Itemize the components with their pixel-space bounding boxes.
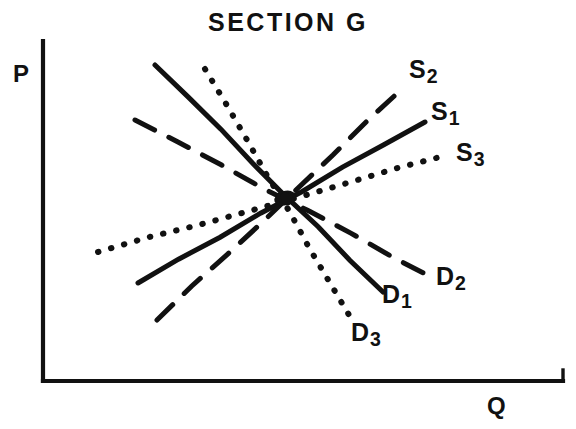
supply-demand-figure: SECTION G P Q S2 S1 S3 D1 D2 D3: [0, 0, 576, 429]
curve-label-s2-sub: 2: [427, 65, 438, 87]
curve-label-d3-base: D: [351, 318, 369, 346]
curve-label-s3-base: S: [456, 138, 473, 166]
curve-label-s1-sub: 1: [449, 107, 460, 129]
curve-label-s2-base: S: [409, 55, 426, 83]
curve-label-s3-sub: 3: [474, 148, 485, 170]
curve-label-d3-sub: 3: [370, 328, 381, 350]
plot-canvas: [0, 0, 576, 429]
curve-d1: [155, 65, 383, 292]
curve-label-d2-sub: 2: [455, 272, 466, 294]
curve-label-d1: D1: [382, 282, 411, 307]
curve-label-s3: S3: [456, 140, 484, 165]
curve-label-d2: D2: [436, 264, 465, 289]
curve-label-d1-base: D: [382, 280, 400, 308]
curve-label-d3: D3: [351, 320, 380, 345]
axis-label-quantity: Q: [487, 392, 506, 420]
curve-s3: [98, 155, 448, 252]
curve-label-s1: S1: [431, 99, 459, 124]
curve-label-d2-base: D: [436, 262, 454, 290]
axis-label-price: P: [13, 60, 29, 88]
curve-label-s2: S2: [409, 57, 437, 82]
curve-label-s1-base: S: [431, 97, 448, 125]
curve-label-d1-sub: 1: [401, 290, 412, 312]
